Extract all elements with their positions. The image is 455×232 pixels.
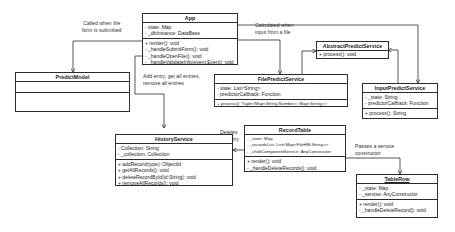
attributes-section: - Collection: String - _collection: Coll… — [116, 144, 232, 160]
edge-recordtable-tablerow — [346, 158, 400, 174]
attributes-section: - _state: Map - _recordsList: List<Map<F… — [245, 135, 345, 157]
class-tablerow: TableRow - _state: Map - _servise: AnyCo… — [356, 174, 438, 218]
attribute: - predictorCallback: Function — [365, 100, 435, 106]
methods-section: + addRecord(type): ObjectId + getAllReco… — [116, 160, 232, 188]
class-predictmodel: PredictModel — [15, 72, 130, 112]
note-history: Add entry, get all entries, remove all e… — [143, 73, 200, 86]
note-line: Passes a service — [355, 143, 394, 150]
method: + process(): void — [319, 51, 386, 57]
class-title: InputPredictService — [363, 84, 437, 93]
attributes-section: - state: List<String> - predictorCallbac… — [215, 84, 347, 100]
class-historyservice: HistoryService - Collection: String - _c… — [115, 134, 233, 186]
edge-app-predictmodel — [73, 41, 142, 72]
class-filepredictservice: FilePredictService - state: List<String>… — [214, 74, 348, 107]
class-title: RecordTable — [245, 126, 345, 135]
attributes-section: - _state: Map - _servise: AnyConstructor — [357, 184, 437, 200]
attribute: - _collection: Collection — [118, 151, 230, 157]
methods-section: + render(): void - _handleSubmitForm(): … — [143, 39, 237, 67]
note-line: constructor — [355, 150, 394, 157]
note-line: form is submitted — [82, 27, 122, 34]
note-service: Passes a service constructor — [355, 143, 394, 156]
method: - _handleDeleteRecords(): void — [247, 165, 343, 171]
class-inputpredictservice: InputPredictService - _state: String - p… — [362, 83, 438, 119]
methods-section: + render(): void - _handleDeleteRecords(… — [245, 157, 345, 172]
note-line: remove all entries — [143, 80, 200, 87]
edge-app-filepredict — [236, 40, 280, 74]
class-title: HistoryService — [116, 135, 232, 144]
attribute: - _servise: AnyConstructor — [359, 191, 435, 197]
class-recordtable: RecordTable - _state: Map - _recordsList… — [244, 125, 346, 172]
edge-inputpredict-abstract — [388, 50, 398, 83]
class-abstractpredictservice: AbstractPredictService + process(): void — [316, 41, 389, 59]
class-title: FilePredictService — [215, 75, 347, 84]
methods-section: + process(): void — [317, 51, 388, 57]
note-line: Add entry, get all entries, — [143, 73, 200, 80]
note-line: Called when the — [82, 20, 122, 27]
note-file-input: Calculated when input from a file — [255, 22, 293, 35]
attribute: - _childComponentService: AnyConstructor — [247, 149, 343, 155]
edge-filepredict-abstract — [302, 51, 316, 74]
method: + removeAllRecords(): void — [118, 180, 230, 186]
class-title: PredictModel — [16, 73, 129, 82]
class-title: TableRow — [357, 175, 437, 184]
attribute: - predictorCallback: Function — [217, 91, 345, 97]
method: - _handleValidateInfo(event:Event): void — [145, 59, 235, 65]
methods-section: + render(): void - _handleDeleteRecord()… — [357, 200, 437, 215]
note-line: Calculated when — [255, 22, 293, 29]
methods-section — [16, 93, 129, 95]
class-title: AbstractPredictService — [317, 42, 388, 51]
attributes-section: - _state: String - predictorCallback: Fu… — [363, 93, 437, 109]
class-title: App — [143, 14, 237, 23]
attribute: - _dbInstance: DataBase — [145, 30, 235, 36]
methods-section: + process(): Tuple<Map<String,Number>, M… — [215, 100, 347, 108]
note-submit: Called when the form is submitted — [82, 20, 122, 33]
attributes-section — [16, 82, 129, 93]
edge-app-history — [135, 56, 164, 128]
note-line: input from a file — [255, 29, 293, 36]
method: - _handleDeleteRecord(): void — [359, 207, 435, 213]
methods-section: + process(): String — [363, 109, 437, 117]
method: + process(): Tuple<Map<String,Number>, M… — [217, 101, 345, 107]
method: + process(): String — [365, 110, 435, 116]
attributes-section: - state: Map - _dbInstance: DataBase — [143, 23, 237, 39]
class-app: App - state: Map - _dbInstance: DataBase… — [142, 13, 238, 65]
